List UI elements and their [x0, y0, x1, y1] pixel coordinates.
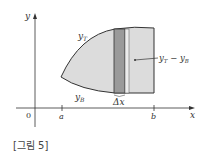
tick-label-b: b — [151, 112, 156, 121]
top-curve-label: yT — [77, 31, 88, 42]
x-axis-label: x — [190, 110, 195, 120]
pointer-dot — [134, 59, 136, 61]
strip-light-edge — [125, 29, 129, 93]
tick-label-a: a — [59, 112, 64, 121]
bottom-curve-label: yB — [74, 92, 85, 103]
y-axis-label: y — [24, 11, 31, 21]
y-axis-arrow-icon — [33, 13, 37, 19]
delta-x-label: Δx — [112, 97, 125, 107]
origin-label: 0 — [26, 111, 31, 120]
figure-caption: [그림 5] — [13, 137, 48, 152]
strip-height-label: yT − yB — [158, 53, 189, 64]
strip-rectangle — [114, 29, 125, 93]
region-between-curves — [61, 27, 154, 93]
